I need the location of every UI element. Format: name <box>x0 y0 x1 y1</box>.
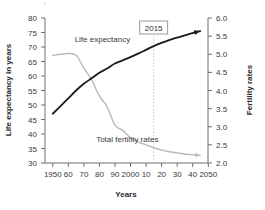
year-marker-annotation: 2015 <box>140 21 168 34</box>
x-tick-label: 70 <box>79 170 88 179</box>
left-tick-label: 60 <box>28 72 37 81</box>
x-tick-label: 1950 <box>44 170 62 179</box>
right-tick-label: 2.0 <box>216 159 228 168</box>
chart-figure: 30 35 40 45 50 55 60 65 70 75 80 2.0 2.5… <box>0 0 265 210</box>
y-axis-title: Life expectancy in years <box>4 43 13 136</box>
x-tick-label: 60 <box>64 170 73 179</box>
y2-axis-title: Fertility rates <box>245 64 254 115</box>
top-stub-mark <box>44 2 45 5</box>
left-tick-label: 40 <box>28 130 37 139</box>
left-tick-label: 30 <box>28 159 37 168</box>
right-tick-label: 6.0 <box>216 14 228 23</box>
x-tick-label: 80 <box>95 170 104 179</box>
x-axis-title: Years <box>115 190 137 199</box>
left-tick-label: 80 <box>28 14 37 23</box>
series-label-total-fertility-rates: Total fertility rates <box>96 135 158 144</box>
left-tick-label: 65 <box>28 58 37 67</box>
right-tick-label: 3.5 <box>216 105 228 114</box>
left-tick-label: 55 <box>28 87 37 96</box>
right-tick-label: 5.0 <box>216 50 228 59</box>
right-tick-label: 4.0 <box>216 87 228 96</box>
x-tick-label: 20 <box>157 170 166 179</box>
left-tick-label: 75 <box>28 29 37 38</box>
right-axis-ticks: 2.0 2.5 3.0 3.5 4.0 4.5 5.0 5.5 6.0 <box>208 14 228 168</box>
x-axis-ticks: 1950 60 70 80 90 2000 10 20 30 40 2050 <box>44 163 218 179</box>
right-tick-label: 4.5 <box>216 68 228 77</box>
x-tick-label: 2050 <box>199 170 217 179</box>
left-tick-label: 50 <box>28 101 37 110</box>
x-tick-label: 2000 <box>122 170 140 179</box>
year-marker-label: 2015 <box>145 24 163 33</box>
x-tick-label: 30 <box>173 170 182 179</box>
right-tick-label: 2.5 <box>216 141 228 150</box>
x-tick-label: 90 <box>111 170 120 179</box>
left-tick-label: 35 <box>28 145 37 154</box>
x-tick-label: 10 <box>142 170 151 179</box>
left-axis-ticks: 30 35 40 45 50 55 60 65 70 75 80 <box>28 14 45 168</box>
right-tick-label: 3.0 <box>216 123 228 132</box>
x-tick-label: 40 <box>188 170 197 179</box>
line-chart-canvas: 30 35 40 45 50 55 60 65 70 75 80 2.0 2.5… <box>0 0 265 210</box>
series-label-life-expectancy: Life expectancy <box>75 35 131 44</box>
left-tick-label: 70 <box>28 43 37 52</box>
left-tick-label: 45 <box>28 116 37 125</box>
right-tick-label: 5.5 <box>216 32 228 41</box>
